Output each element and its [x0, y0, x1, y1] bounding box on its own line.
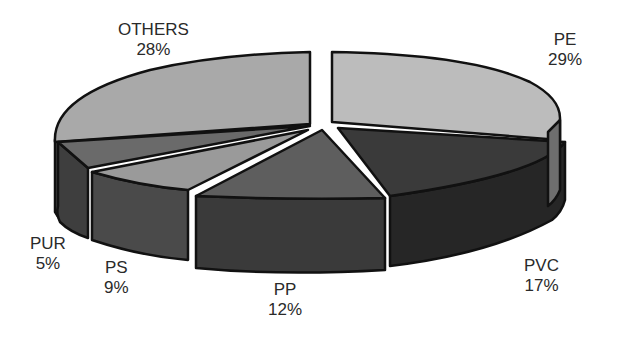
- label-pvc-pct: 17%: [524, 276, 559, 296]
- label-pp-name: PP: [268, 280, 302, 300]
- label-pur-pct: 5%: [30, 254, 66, 274]
- label-others: OTHERS 28%: [118, 20, 189, 60]
- label-pvc: PVC 17%: [524, 256, 559, 296]
- label-pe-pct: 29%: [548, 50, 582, 70]
- label-pe: PE 29%: [548, 30, 582, 70]
- label-pp: PP 12%: [268, 280, 302, 320]
- label-ps-pct: 9%: [104, 278, 129, 298]
- label-pe-name: PE: [548, 30, 582, 50]
- label-ps-name: PS: [104, 258, 129, 278]
- label-pp-pct: 12%: [268, 300, 302, 320]
- label-others-pct: 28%: [118, 40, 189, 60]
- label-ps: PS 9%: [104, 258, 129, 298]
- label-pvc-name: PVC: [524, 256, 559, 276]
- label-pur: PUR 5%: [30, 234, 66, 274]
- label-pur-name: PUR: [30, 234, 66, 254]
- label-others-name: OTHERS: [118, 20, 189, 40]
